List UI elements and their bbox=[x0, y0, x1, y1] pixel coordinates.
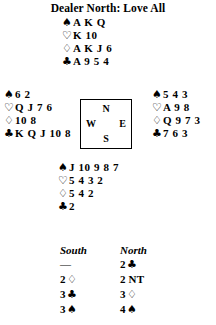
auction-row: 2♢ 2NT bbox=[60, 272, 180, 287]
hand-south-hearts-cards: 5 4 3 2 bbox=[69, 174, 103, 187]
heart-icon: ♡ bbox=[152, 102, 163, 113]
hand-north-hearts: ♡ K 10 bbox=[62, 29, 112, 42]
auction-bid-south: 2♢ bbox=[60, 272, 120, 287]
bid-level: 3 bbox=[60, 303, 66, 315]
hand-south-spades: ♠ J 10 9 8 7 bbox=[58, 161, 119, 174]
auction-bid-south: 3♣ bbox=[60, 287, 120, 302]
heart-icon: ♡ bbox=[62, 30, 73, 41]
auction-bid-north: 2NT bbox=[120, 272, 180, 287]
bid-level: 3 bbox=[120, 288, 126, 300]
hand-south-spades-cards: J 10 9 8 7 bbox=[69, 161, 119, 174]
spade-icon: ♠ bbox=[4, 89, 15, 100]
hand-east-diamonds: ♢ Q 9 7 3 bbox=[152, 114, 201, 127]
spade-icon: ♠ bbox=[58, 162, 69, 173]
hand-west: ♠ 6 2 ♡ Q J 7 6 ♢ 10 8 ♣ K Q J 10 8 bbox=[4, 88, 71, 140]
bid-notrump bbox=[77, 288, 79, 300]
hand-east-clubs: ♣ 7 6 3 bbox=[152, 127, 201, 140]
hand-east-hearts: ♡ A 9 8 bbox=[152, 101, 201, 114]
hand-west-clubs-cards: K Q J 10 8 bbox=[15, 127, 71, 140]
auction-bid-south: 3♠ bbox=[60, 302, 120, 317]
hand-south-diamonds: ♢ 5 4 2 bbox=[58, 187, 119, 200]
bid-suit-icon: ♠ bbox=[126, 303, 137, 316]
compass-west-label: W bbox=[86, 119, 96, 129]
hand-south-clubs-cards: 2 bbox=[69, 200, 75, 213]
auction-column-north: North bbox=[120, 243, 180, 257]
hand-east-hearts-cards: A 9 8 bbox=[163, 101, 190, 114]
auction-table: South North — 2♣ 2♢ 2NT 3♣ 3♢ 3♠ 4♠ bbox=[60, 243, 180, 317]
auction-bid-north: 3♢ bbox=[120, 287, 180, 302]
hand-west-spades-cards: 6 2 bbox=[15, 88, 31, 101]
spade-icon: ♠ bbox=[62, 17, 73, 28]
hand-east: ♠ 5 4 3 ♡ A 9 8 ♢ Q 9 7 3 ♣ 7 6 3 bbox=[152, 88, 201, 140]
club-icon: ♣ bbox=[62, 56, 73, 67]
bid-notrump bbox=[137, 258, 139, 270]
auction-bid-south: — bbox=[60, 257, 120, 272]
bid-notrump: NT bbox=[127, 273, 144, 285]
bid-suit-icon: ♠ bbox=[66, 303, 77, 316]
auction-row: 3♠ 4♠ bbox=[60, 302, 180, 317]
bid-level: 2 bbox=[60, 273, 66, 285]
bid-suit-icon: ♣ bbox=[126, 258, 137, 271]
hand-north-diamonds: ♢ A K J 6 bbox=[62, 42, 112, 55]
bid-suit-icon: ♢ bbox=[126, 288, 137, 301]
hand-north-diamonds-cards: A K J 6 bbox=[73, 42, 112, 55]
hand-south-hearts: ♡ 5 4 3 2 bbox=[58, 174, 119, 187]
spade-icon: ♠ bbox=[152, 89, 163, 100]
hand-west-diamonds-cards: 10 8 bbox=[15, 114, 37, 127]
heart-icon: ♡ bbox=[4, 102, 15, 113]
auction-column-south: South bbox=[60, 243, 120, 257]
hand-north-hearts-cards: K 10 bbox=[73, 29, 98, 42]
hand-east-diamonds-cards: Q 9 7 3 bbox=[163, 114, 201, 127]
page-title: Dealer North: Love All bbox=[0, 0, 216, 15]
club-icon: ♣ bbox=[58, 201, 69, 212]
bid-level: 4 bbox=[120, 303, 126, 315]
hand-north-clubs-cards: A 9 5 4 bbox=[73, 55, 109, 68]
hand-south-clubs: ♣ 2 bbox=[58, 200, 119, 213]
hand-south-diamonds-cards: 5 4 2 bbox=[69, 187, 94, 200]
bid-level: 2 bbox=[120, 258, 126, 270]
auction-bid-north: 2♣ bbox=[120, 257, 180, 272]
bid-notrump bbox=[73, 258, 75, 270]
bid-notrump bbox=[137, 303, 139, 315]
hand-north-spades-cards: A K Q bbox=[73, 16, 106, 29]
hand-west-spades: ♠ 6 2 bbox=[4, 88, 71, 101]
heart-icon: ♡ bbox=[58, 175, 69, 186]
bid-level: 3 bbox=[60, 288, 66, 300]
hand-north: ♠ A K Q ♡ K 10 ♢ A K J 6 ♣ A 9 5 4 bbox=[62, 16, 112, 68]
bid-suit-icon: ♣ bbox=[66, 288, 77, 301]
compass-north-label: N bbox=[102, 104, 109, 114]
diamond-icon: ♢ bbox=[4, 115, 15, 126]
auction-row: 3♣ 3♢ bbox=[60, 287, 180, 302]
bid-level: 2 bbox=[120, 273, 126, 285]
auction-row: — 2♣ bbox=[60, 257, 180, 272]
hand-west-hearts: ♡ Q J 7 6 bbox=[4, 101, 71, 114]
hand-north-clubs: ♣ A 9 5 4 bbox=[62, 55, 112, 68]
hand-west-diamonds: ♢ 10 8 bbox=[4, 114, 71, 127]
hand-west-clubs: ♣ K Q J 10 8 bbox=[4, 127, 71, 140]
bid-notrump bbox=[137, 288, 139, 300]
hand-south: ♠ J 10 9 8 7 ♡ 5 4 3 2 ♢ 5 4 2 ♣ 2 bbox=[58, 161, 119, 213]
diamond-icon: ♢ bbox=[152, 115, 163, 126]
bid-notrump bbox=[77, 273, 79, 285]
club-icon: ♣ bbox=[4, 128, 15, 139]
hand-east-spades: ♠ 5 4 3 bbox=[152, 88, 201, 101]
auction-bid-north: 4♠ bbox=[120, 302, 180, 317]
compass-box: N W E S bbox=[80, 99, 132, 149]
compass-south-label: S bbox=[103, 134, 109, 144]
hand-north-spades: ♠ A K Q bbox=[62, 16, 112, 29]
auction-header-row: South North bbox=[60, 243, 180, 257]
hand-east-clubs-cards: 7 6 3 bbox=[163, 127, 188, 140]
hand-east-spades-cards: 5 4 3 bbox=[163, 88, 188, 101]
club-icon: ♣ bbox=[152, 128, 163, 139]
bid-notrump bbox=[77, 303, 79, 315]
diamond-icon: ♢ bbox=[62, 43, 73, 54]
compass-east-label: E bbox=[119, 119, 126, 129]
diamond-icon: ♢ bbox=[58, 188, 69, 199]
bid-suit-icon: ♢ bbox=[66, 273, 77, 286]
hand-west-hearts-cards: Q J 7 6 bbox=[15, 101, 53, 114]
bid-level: — bbox=[60, 258, 71, 270]
